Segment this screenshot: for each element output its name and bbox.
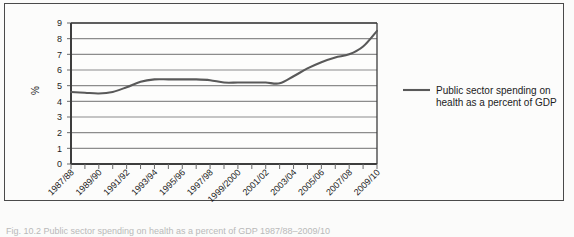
x-axis-tick-label: 2007/08 [324, 167, 354, 197]
x-axis-tick-label: 1991/92 [101, 167, 131, 197]
y-axis-tick-label: 2 [57, 128, 62, 138]
x-axis-tick-label: 2001/02 [241, 167, 271, 197]
x-axis-tick-label: 1989/90 [74, 167, 104, 197]
y-axis-tick-label: 3 [57, 112, 62, 122]
y-axis-tick-label: 5 [57, 81, 62, 91]
y-axis-title: % [30, 86, 41, 95]
x-axis-tick-label: 1993/94 [129, 167, 159, 197]
y-axis-tick-label: 1 [57, 144, 62, 154]
y-axis-tick-label: 9 [57, 18, 62, 28]
x-axis-tick-label: 1987/88 [46, 167, 76, 197]
x-axis-tick-label: 2009/10 [352, 167, 382, 197]
y-axis-tick-label: 0 [57, 159, 62, 169]
x-axis-tick-label: 1995/96 [157, 167, 187, 197]
legend-label-line-1: Public sector spending on [436, 85, 551, 96]
y-axis-tick-label: 7 [57, 50, 62, 60]
plot-background [71, 23, 377, 164]
y-axis-tick-label: 8 [57, 34, 62, 44]
legend-label-line-2: health as a percent of GDP [436, 97, 557, 108]
chart-plot-container: 01234567891987/881989/901991/921993/9419… [5, 4, 565, 202]
y-axis-tick-label: 4 [57, 97, 62, 107]
x-axis-tick-label: 2005/06 [296, 167, 326, 197]
figure-caption: Fig. 10.2 Public sector spending on heal… [6, 226, 566, 237]
x-axis-tick-label: 2003/04 [268, 167, 298, 197]
figure-border-frame: 01234567891987/881989/901991/921993/9419… [4, 3, 564, 201]
line-chart: 01234567891987/881989/901991/921993/9419… [5, 4, 565, 202]
y-axis-tick-label: 6 [57, 65, 62, 75]
figure-root: 01234567891987/881989/901991/921993/9419… [0, 0, 574, 237]
